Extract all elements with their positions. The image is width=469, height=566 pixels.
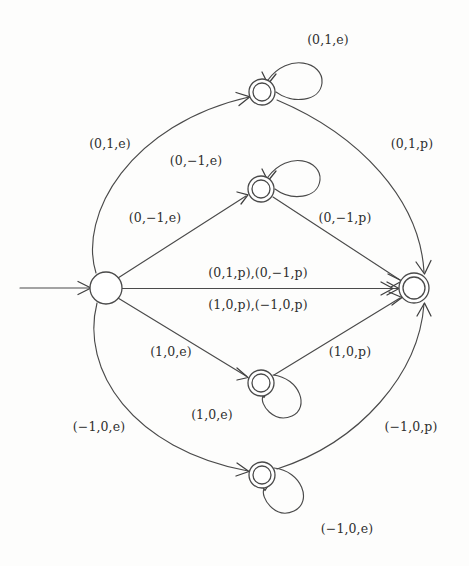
edge-bottom-to-final — [277, 303, 431, 469]
state-upper-middle[interactable] — [248, 176, 274, 202]
state-final-right[interactable] — [399, 273, 429, 303]
label-loop-lower-middle: (1,0,e) — [191, 407, 233, 422]
label-loop-bottom: (−1,0,e) — [321, 521, 373, 536]
label-center-upper: (0,1,p),(0,−1,p) — [208, 265, 307, 280]
label-arc-top-left: (0,1,e) — [89, 136, 131, 151]
automaton-svg: (0,1,e) (0,1,e) (0,1,p) (0,−1,e) (0,−1,e… — [0, 0, 469, 566]
label-loop-top: (0,1,e) — [307, 32, 349, 47]
start-arrow — [20, 282, 91, 295]
state-lower-middle[interactable] — [248, 370, 274, 396]
label-arc-bottom-right: (−1,0,p) — [385, 419, 438, 434]
label-loop-upper-middle: (0,−1,e) — [170, 153, 222, 168]
label-edge-upper-in: (0,−1,e) — [129, 210, 181, 225]
label-arc-bottom-left: (−1,0,e) — [73, 419, 125, 434]
edge-top-to-final — [277, 100, 431, 274]
state-start[interactable] — [90, 272, 122, 304]
label-edge-lower-out: (1,0,p) — [329, 344, 371, 359]
state-bottom[interactable] — [249, 462, 275, 488]
edge-start-to-top — [93, 93, 250, 274]
edge-start-to-bottom — [94, 303, 249, 476]
label-arc-top-right: (0,1,p) — [391, 136, 433, 151]
automaton-diagram: (0,1,e) (0,1,e) (0,1,p) (0,−1,e) (0,−1,e… — [0, 0, 469, 566]
label-center-lower: (1,0,p),(−1,0,p) — [208, 297, 307, 312]
label-edge-lower-in: (1,0,e) — [150, 344, 192, 359]
label-edge-upper-out: (0,−1,p) — [319, 210, 372, 225]
state-top[interactable] — [249, 79, 275, 105]
edge-start-to-final-direct — [122, 282, 399, 295]
